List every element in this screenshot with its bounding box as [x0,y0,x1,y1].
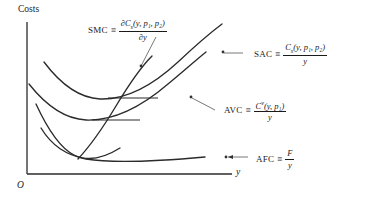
afc-label-name: AFC [256,155,274,164]
avc-leader [190,96,215,110]
smc-num-args: (y, p₁, p₂) [133,18,165,28]
afc-leader-arrow [228,155,233,159]
cost-curves-figure: Costs y O SMC ≡ ∂Cs(y, p₁, p₂) ∂y SAC ≡ … [0,0,375,201]
sac-numerator: Cs(y, p₁, p₂) [283,43,327,55]
avc-num-args: (y, p₁) [264,101,284,111]
x-axis-label: y [236,167,240,177]
afc-fraction: F y [285,149,294,169]
origin-label: O [17,180,24,190]
afc-leader-dot [225,156,228,159]
avc-denominator: y [266,112,274,122]
avc-label: AVC ≡ Cv(y, p₁) y [224,100,286,122]
sac-denominator: y [301,56,309,66]
avc-equiv: ≡ [245,106,250,115]
smc-curve [78,56,152,159]
smc-leader-dot [140,65,143,68]
avc-label-name: AVC [224,106,242,115]
y-axis-label: Costs [18,4,39,14]
avc-fraction: Cv(y, p₁) y [254,100,287,122]
avc-leader-dot [190,96,193,99]
smc-denominator: ∂y [137,32,149,42]
sac-leader [222,51,243,54]
afc-equiv: ≡ [277,155,282,164]
smc-fraction: ∂Cs(y, p₁, p₂) ∂y [119,19,167,41]
diagram-canvas [0,0,375,201]
afc-label: AFC ≡ F y [256,149,294,169]
sac-num-args: (y, p₁, p₂) [293,42,325,52]
smc-label: SMC ≡ ∂Cs(y, p₁, p₂) ∂y [88,19,167,41]
avc-numerator: Cv(y, p₁) [254,100,287,111]
sac-fraction: Cs(y, p₁, p₂) y [283,43,327,65]
avc-curve [29,52,206,120]
sac-label-name: SAC [254,50,272,59]
sac-equiv: ≡ [275,50,280,59]
afc-leader [225,155,248,159]
smc-label-name: SMC [88,26,108,35]
lower-u-curve [36,104,120,159]
smc-equiv: ≡ [111,26,116,35]
sac-label: SAC ≡ Cs(y, p₁, p₂) y [254,43,327,65]
afc-denominator: y [286,160,294,170]
smc-numerator: ∂Cs(y, p₁, p₂) [119,19,167,31]
sac-leader-dot [222,51,225,54]
smc-num-symbol: ∂C [121,18,131,28]
afc-numerator: F [285,149,294,159]
afc-curve [41,128,205,161]
